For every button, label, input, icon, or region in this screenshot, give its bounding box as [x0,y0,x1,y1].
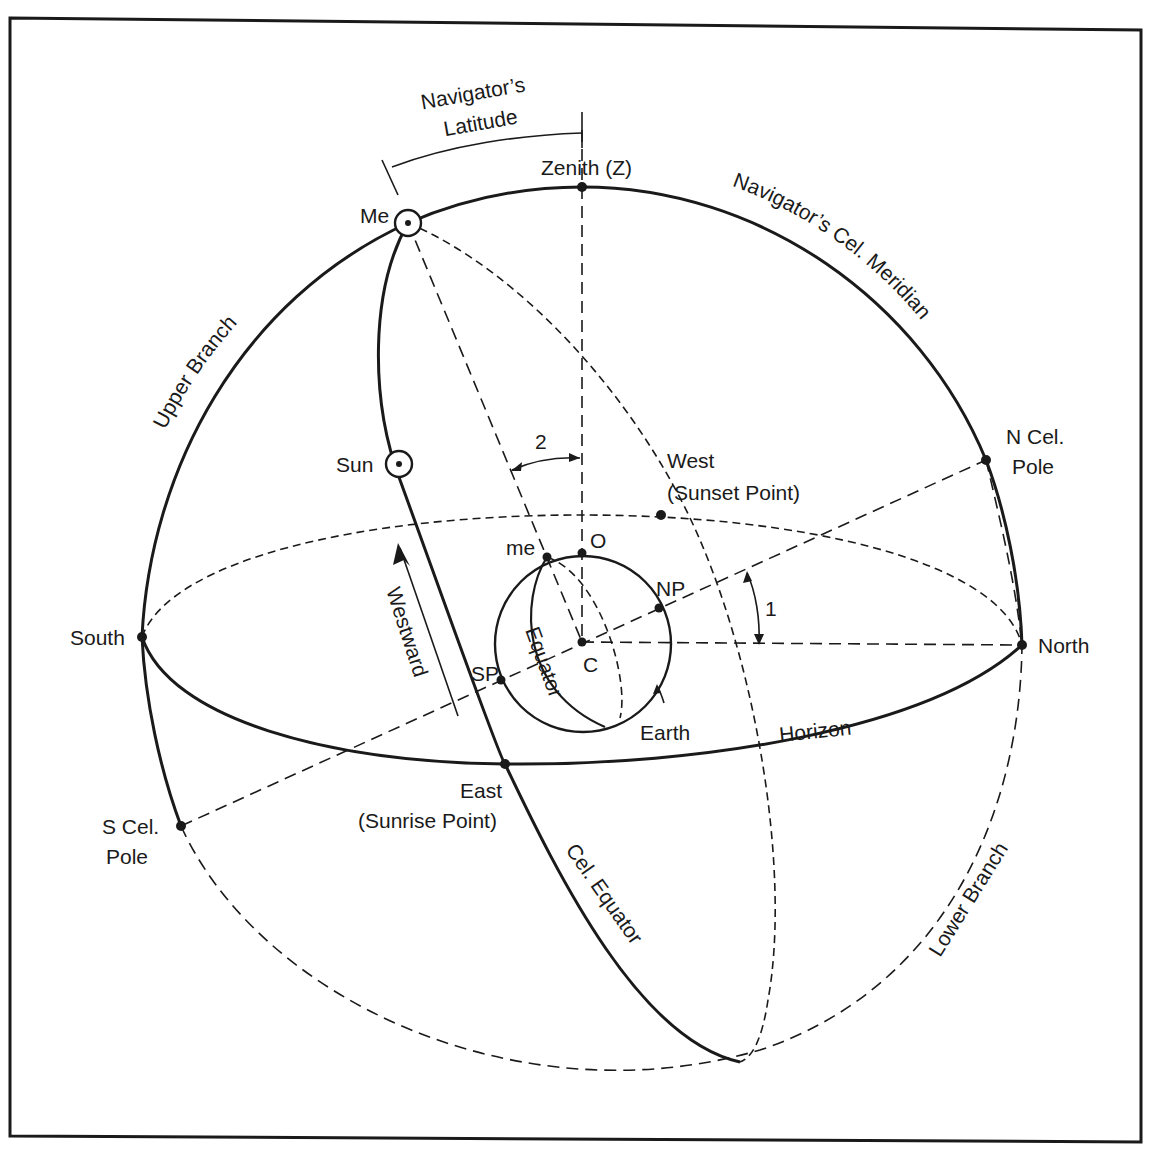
label-s-cel-pole-2: Pole [106,845,148,868]
label-east-2: (Sunrise Point) [358,809,497,832]
north-line [582,642,1022,645]
label-navigators-cel-meridian: Navigator’s Cel. Meridian [730,168,936,323]
label-westward: Westward [382,584,433,680]
meridian-lower-branch [181,645,1022,1070]
label-upper-branch: Upper Branch [148,311,241,432]
label-navigators-latitude-2: Latitude [442,105,520,141]
angle-2-arrow-right [569,453,580,462]
horizon-front [142,637,1022,764]
me-center-line [408,223,582,642]
n-cel-pole-point [981,455,991,465]
label-me: Me [360,204,389,227]
label-me-small: me [506,536,535,559]
o-point [578,549,587,558]
label-horizon: Horizon [778,716,852,746]
westward-arrowhead-icon [393,543,410,566]
label-n-cel-pole-2: Pole [1012,455,1054,478]
south-point [137,632,147,642]
label-sun: Sun [336,453,373,476]
label-equator: Equator [521,624,568,701]
me-small-point [543,553,552,562]
label-angle-1: 1 [765,597,777,620]
label-n-cel-pole-1: N Cel. [1006,425,1064,448]
label-o: O [590,529,606,552]
label-angle-2: 2 [535,430,547,453]
label-lower-branch: Lower Branch [924,838,1012,960]
label-west-2: (Sunset Point) [667,481,800,504]
label-cel-equator: Cel. Equator [562,839,648,948]
me-sun-symbol-icon [395,210,421,236]
zenith-point [577,182,587,192]
west-point [656,510,666,520]
label-north: North [1038,634,1089,657]
north-point [1017,640,1027,650]
label-c: C [583,653,598,676]
label-earth: Earth [640,721,690,744]
east-point [500,759,510,769]
np-point [655,604,664,613]
celestial-sphere-diagram: Navigator’s Latitude Zenith (Z) Me Navig… [0,0,1150,1155]
center-point [578,638,587,647]
s-cel-pole-point [176,821,186,831]
meridian-upper-branch-south [142,637,181,826]
label-np: NP [656,577,685,600]
label-sp: SP [471,662,499,685]
label-south: South [70,626,125,649]
angle-1-arrow-top [743,571,752,583]
label-east-1: East [460,779,502,802]
angle-1-arc [747,573,759,643]
label-west-1: West [667,449,715,472]
label-zenith: Zenith (Z) [541,156,632,179]
label-s-cel-pole-1: S Cel. [102,815,159,838]
angle-2-arrow-left [511,462,522,471]
meridian-lower-branch-top [986,460,1022,645]
sun-symbol-icon [386,451,412,477]
